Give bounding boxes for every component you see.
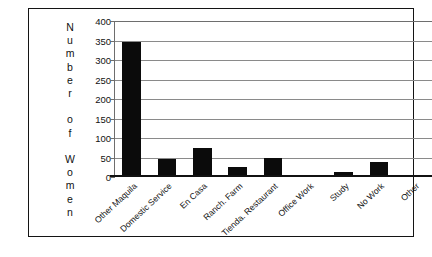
y-axis-tickmark <box>110 119 115 120</box>
y-axis-title-letter: e <box>67 74 73 87</box>
bar-cell <box>397 21 432 177</box>
bar-cell <box>255 21 290 177</box>
bar-cell <box>185 21 220 177</box>
bar-cell <box>326 21 361 177</box>
y-axis-tick-label: 350 <box>95 35 111 46</box>
x-axis-tick-labels: Other MaquilaDomestic ServiceEn CasaRanc… <box>114 179 432 239</box>
y-axis-title-letter: W <box>65 153 75 166</box>
x-axis-tick-label: Other <box>399 181 422 203</box>
bar[interactable] <box>193 148 211 177</box>
y-axis-title-letter: u <box>67 34 73 47</box>
bar-cell <box>114 21 149 177</box>
bar-cell <box>220 21 255 177</box>
y-axis-tickmark <box>110 158 115 159</box>
x-axis-tick-cell: Domestic Service <box>149 179 184 239</box>
y-axis-tick-label: 250 <box>95 74 111 85</box>
x-axis-tick-label: Study <box>328 181 351 203</box>
bar[interactable] <box>122 42 140 177</box>
y-axis-title: Number of Women <box>62 21 78 219</box>
y-axis-tickmark <box>110 21 115 22</box>
y-axis-tickmark <box>110 99 115 100</box>
y-axis-title-letter: o <box>67 113 73 126</box>
y-axis-title-letter <box>69 140 72 153</box>
y-axis-title-letter: o <box>67 166 73 179</box>
y-axis-tick-labels: 400350300250200150100500 <box>81 21 111 177</box>
y-axis-tickmark <box>110 41 115 42</box>
y-axis-tick-label: 300 <box>95 55 111 66</box>
x-axis-tick-cell: Study <box>326 179 361 239</box>
y-axis-tickmark <box>110 138 115 139</box>
y-axis-tick-label: 400 <box>95 16 111 27</box>
y-axis-title-letter: f <box>69 127 72 140</box>
y-axis-title-letter: n <box>67 206 73 219</box>
y-axis-title-letter: e <box>67 193 73 206</box>
y-axis-tick-label: 100 <box>95 133 111 144</box>
y-axis-title-letter: r <box>68 87 72 100</box>
y-axis-title-letter: b <box>67 61 73 74</box>
y-axis-title-letter <box>69 100 72 113</box>
bar-cell <box>361 21 396 177</box>
y-axis-title-letter: N <box>66 21 74 34</box>
x-axis-line <box>110 175 432 177</box>
x-axis-tick-cell: Other <box>397 179 432 239</box>
y-axis-tick-label: 150 <box>95 113 111 124</box>
bar-series <box>114 21 432 177</box>
chart-frame: Number of Women 400350300250200150100500… <box>28 8 414 237</box>
plot-area <box>114 21 432 177</box>
bar-cell <box>149 21 184 177</box>
x-axis-tick-cell: No Work <box>361 179 396 239</box>
bar-cell <box>291 21 326 177</box>
y-axis-tickmark <box>110 80 115 81</box>
y-axis-tick-label: 200 <box>95 94 111 105</box>
y-axis-title-letter: m <box>66 47 75 60</box>
y-axis-tickmark <box>110 177 115 178</box>
y-axis-title-letter: m <box>66 179 75 192</box>
x-axis-tick-cell: Office Work <box>291 179 326 239</box>
y-axis-tickmark <box>110 60 115 61</box>
